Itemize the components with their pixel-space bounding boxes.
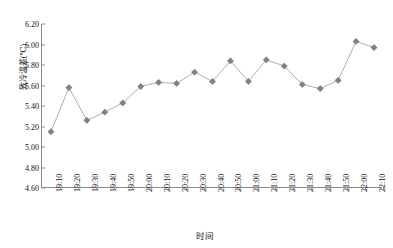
y-tick-label: 4.60	[25, 184, 39, 193]
data-point-marker	[174, 80, 180, 86]
series-line	[51, 41, 374, 131]
y-tick-label: 5.80	[25, 61, 39, 70]
y-tick-label: 6.20	[25, 20, 39, 29]
data-point-marker	[353, 38, 359, 44]
x-axis-title: 时间	[0, 229, 393, 241]
y-tick-label: 5.20	[25, 122, 39, 131]
data-point-marker	[48, 129, 54, 135]
data-point-marker	[102, 109, 108, 115]
chart-container: 致冷温差(℃) 6.206.005.805.605.405.205.004.80…	[0, 0, 393, 248]
plot-area: 6.206.005.805.605.405.205.004.804.60 19:…	[41, 24, 382, 188]
data-series-layer	[42, 24, 383, 188]
y-tick-label: 6.00	[25, 40, 39, 49]
y-tick-label: 5.60	[25, 81, 39, 90]
x-tick-mark	[383, 187, 384, 190]
data-point-marker	[84, 117, 90, 123]
data-point-marker	[156, 79, 162, 85]
x-axis-title-text: 时间	[196, 231, 214, 241]
y-tick-label: 5.40	[25, 102, 39, 111]
data-point-marker	[191, 69, 197, 75]
data-point-marker	[66, 84, 72, 90]
data-point-marker	[317, 85, 323, 91]
data-point-marker	[335, 77, 341, 83]
data-point-marker	[371, 44, 377, 50]
y-tick-label: 4.80	[25, 163, 39, 172]
y-tick-label: 5.00	[25, 143, 39, 152]
